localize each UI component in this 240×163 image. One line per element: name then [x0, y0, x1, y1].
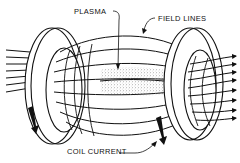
plasma-leader: [113, 11, 119, 68]
plasma-coil-diagram: PLASMA FIELD LINES COIL CURRENT: [0, 0, 240, 163]
coil-current-label: COIL CURRENT: [67, 148, 127, 156]
field-lines-leader: [144, 18, 155, 30]
plasma-label: PLASMA: [74, 8, 106, 16]
diagram-graphic: [0, 0, 240, 163]
field-lines-label: FIELD LINES: [158, 15, 206, 23]
